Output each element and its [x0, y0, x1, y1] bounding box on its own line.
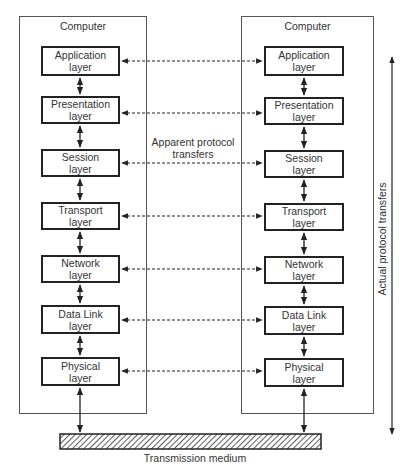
- layer-name: Data Link: [282, 309, 326, 321]
- right-physical-layer: Physical layer: [264, 358, 344, 387]
- left-network-layer: Network layer: [41, 255, 120, 283]
- layer-sub: layer: [69, 110, 92, 122]
- layer-sub: layer: [293, 217, 316, 229]
- left-session-layer: Session layer: [41, 149, 120, 177]
- layer-name: Application: [55, 49, 106, 61]
- apparent-transfers-label-line2: transfers: [143, 148, 243, 160]
- right-presentation-layer: Presentation layer: [264, 97, 344, 125]
- layer-name: Presentation: [275, 99, 334, 111]
- layer-sub: layer: [69, 320, 92, 332]
- layer-sub: layer: [293, 61, 316, 73]
- right-application-layer: Application layer: [264, 46, 344, 76]
- left-computer-title: Computer: [20, 20, 146, 32]
- actual-transfers-label: Actual protocol transfers: [376, 174, 388, 304]
- right-data-link-layer: Data Link layer: [264, 306, 344, 335]
- layer-sub: layer: [69, 269, 92, 281]
- left-application-layer: Application layer: [41, 46, 120, 76]
- layer-name: Session: [285, 152, 322, 164]
- right-computer-title: Computer: [242, 20, 373, 32]
- transmission-medium-label: Transmission medium: [130, 452, 260, 464]
- layer-name: Network: [61, 257, 100, 269]
- layer-sub: layer: [69, 372, 92, 384]
- layer-sub: layer: [69, 216, 92, 228]
- right-network-layer: Network layer: [264, 256, 344, 284]
- layer-sub: layer: [293, 321, 316, 333]
- layer-name: Session: [62, 151, 99, 163]
- layer-name: Network: [285, 258, 324, 270]
- layer-name: Physical: [61, 360, 100, 372]
- layer-name: Presentation: [51, 98, 110, 110]
- left-physical-layer: Physical layer: [41, 357, 120, 386]
- layer-name: Application: [278, 49, 329, 61]
- layer-sub: layer: [293, 164, 316, 176]
- right-transport-layer: Transport layer: [264, 203, 344, 231]
- layer-sub: layer: [69, 61, 92, 73]
- layer-sub: layer: [293, 111, 316, 123]
- layer-sub: layer: [293, 373, 316, 385]
- left-presentation-layer: Presentation layer: [41, 96, 120, 124]
- layer-name: Physical: [284, 361, 323, 373]
- layer-sub: layer: [293, 270, 316, 282]
- right-session-layer: Session layer: [264, 150, 344, 178]
- left-data-link-layer: Data Link layer: [41, 305, 120, 334]
- layer-sub: layer: [69, 163, 92, 175]
- layer-name: Transport: [282, 205, 327, 217]
- apparent-transfers-label-line1: Apparent protocol: [143, 136, 243, 148]
- layer-name: Transport: [58, 204, 103, 216]
- layer-name: Data Link: [58, 308, 102, 320]
- left-transport-layer: Transport layer: [41, 202, 120, 230]
